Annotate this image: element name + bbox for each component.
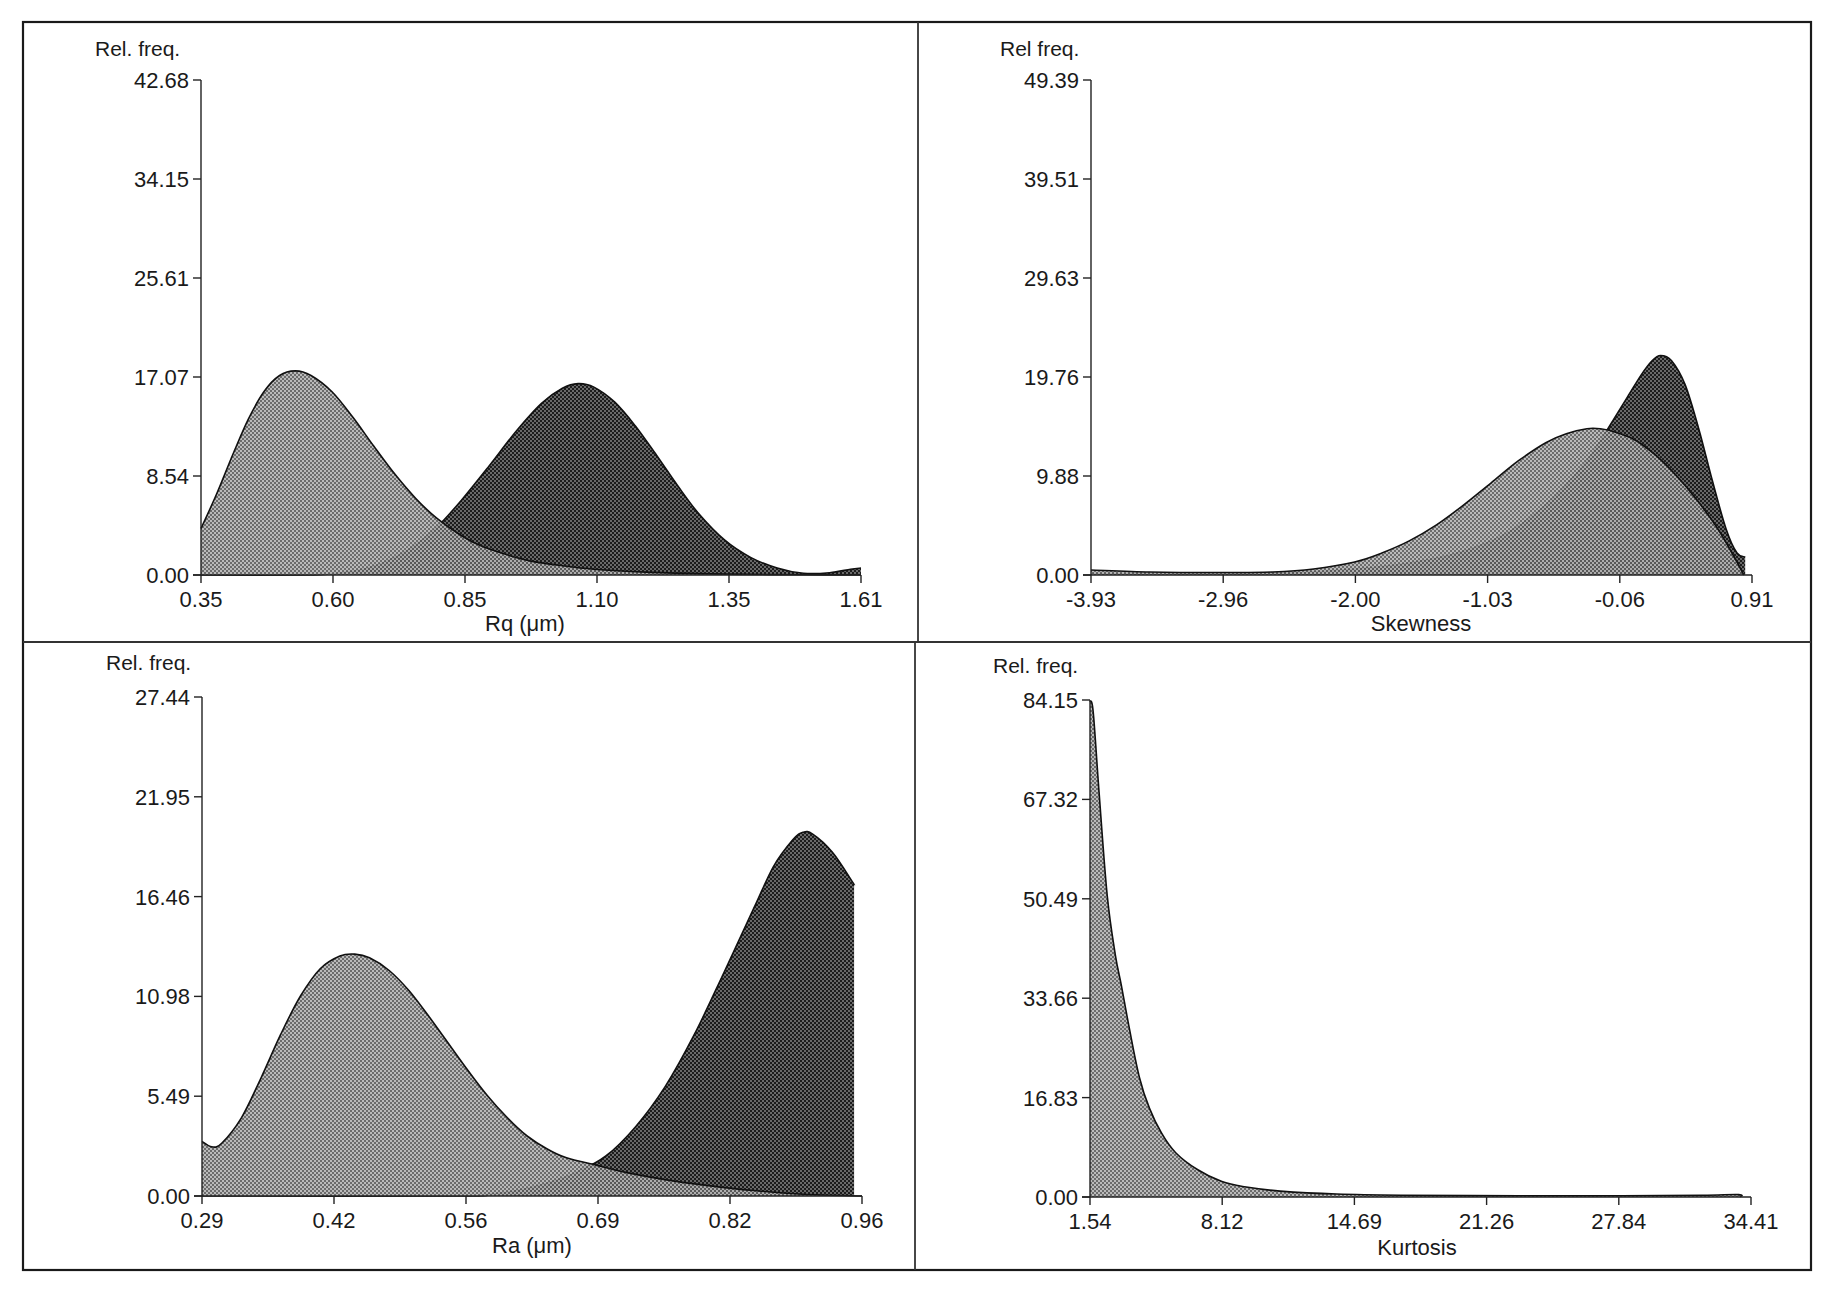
skewness-distribution-areas: [1091, 356, 1745, 576]
y-tick-label: 19.76: [1024, 365, 1079, 390]
x-tick-label: 0.56: [445, 1208, 488, 1233]
kurtosis-distribution-areas: [1090, 701, 1742, 1197]
x-axis-title: Ra (μm): [492, 1233, 572, 1258]
x-tick-label: -3.93: [1066, 587, 1116, 612]
y-tick-label: 8.54: [146, 464, 189, 489]
x-tick-label: -2.96: [1198, 587, 1248, 612]
x-axis-title: Kurtosis: [1377, 1235, 1456, 1260]
y-tick-label: 16.83: [1023, 1086, 1078, 1111]
x-tick-label: 21.26: [1459, 1209, 1514, 1234]
x-tick-label: 0.29: [181, 1208, 224, 1233]
y-tick-label: 25.61: [134, 266, 189, 291]
panel-ra: 0.005.4910.9816.4621.9527.440.290.420.56…: [106, 651, 883, 1258]
y-tick-label: 50.49: [1023, 887, 1078, 912]
y-tick-label: 39.51: [1024, 167, 1079, 192]
figure: 0.008.5417.0725.6134.1542.680.350.600.85…: [0, 0, 1831, 1290]
x-tick-label: 0.35: [180, 587, 223, 612]
x-tick-label: 1.35: [708, 587, 751, 612]
y-axis-title: Rel freq.: [1000, 37, 1079, 60]
x-tick-label: 0.85: [444, 587, 487, 612]
y-tick-label: 0.00: [146, 563, 189, 588]
y-tick-label: 84.15: [1023, 688, 1078, 713]
panel-rq: 0.008.5417.0725.6134.1542.680.350.600.85…: [95, 37, 882, 636]
x-tick-label: 1.10: [576, 587, 619, 612]
x-tick-label: 0.42: [313, 1208, 356, 1233]
x-tick-label: 27.84: [1591, 1209, 1646, 1234]
x-tick-label: 0.91: [1731, 587, 1774, 612]
y-tick-label: 16.46: [135, 885, 190, 910]
y-tick-label: 33.66: [1023, 986, 1078, 1011]
x-tick-label: 1.61: [840, 587, 883, 612]
x-tick-label: 14.69: [1327, 1209, 1382, 1234]
y-tick-label: 67.32: [1023, 787, 1078, 812]
x-tick-label: 0.69: [577, 1208, 620, 1233]
panel-kurtosis: 0.0016.8333.6650.4967.3284.151.548.1214.…: [993, 654, 1779, 1260]
y-tick-label: 0.00: [1036, 563, 1079, 588]
y-axis-title: Rel. freq.: [993, 654, 1078, 677]
y-tick-label: 27.44: [135, 685, 190, 710]
light-distribution-area: [1091, 428, 1744, 575]
y-axis-title: Rel. freq.: [95, 37, 180, 60]
y-tick-label: 21.95: [135, 785, 190, 810]
x-axis-title: Rq (μm): [485, 611, 565, 636]
x-tick-label: -1.03: [1463, 587, 1513, 612]
ra-distribution-areas: [202, 832, 862, 1197]
x-tick-label: 0.60: [312, 587, 355, 612]
y-tick-label: 17.07: [134, 365, 189, 390]
y-tick-label: 0.00: [147, 1184, 190, 1209]
y-tick-label: 42.68: [134, 68, 189, 93]
x-tick-label: 0.96: [841, 1208, 884, 1233]
x-tick-label: -2.00: [1330, 587, 1380, 612]
x-tick-label: 1.54: [1069, 1209, 1112, 1234]
light-distribution-curve: [1090, 701, 1742, 1197]
x-tick-label: 34.41: [1723, 1209, 1778, 1234]
y-axis-title: Rel. freq.: [106, 651, 191, 674]
x-tick-label: 8.12: [1201, 1209, 1244, 1234]
x-axis-title: Skewness: [1371, 611, 1471, 636]
x-tick-label: -0.06: [1595, 587, 1645, 612]
y-tick-label: 10.98: [135, 984, 190, 1009]
y-tick-label: 0.00: [1035, 1185, 1078, 1210]
y-tick-label: 9.88: [1036, 464, 1079, 489]
x-tick-label: 0.82: [709, 1208, 752, 1233]
rq-distribution-areas: [201, 371, 861, 575]
y-tick-label: 5.49: [147, 1084, 190, 1109]
light-distribution-area: [1090, 701, 1742, 1197]
y-tick-label: 34.15: [134, 167, 189, 192]
panel-skewness: 0.009.8819.7629.6339.5149.39-3.93-2.96-2…: [1000, 37, 1773, 636]
y-tick-label: 49.39: [1024, 68, 1079, 93]
y-tick-label: 29.63: [1024, 266, 1079, 291]
